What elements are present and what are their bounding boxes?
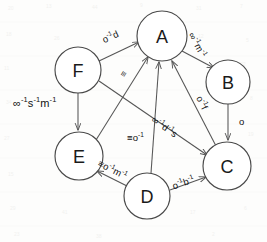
graph-svg: A B C D E F [0,0,267,242]
node-A-label: A [156,27,168,47]
edge-label-F-E: ∞-1s-1m-1 [13,98,56,109]
node-E-label: E [73,147,85,167]
node-F-label: F [73,61,84,81]
nodes-group: A B C D E F [55,11,251,219]
node-B-label: B [222,73,234,93]
node-D-label: D [141,187,154,207]
node-F[interactable]: F [55,47,101,93]
edge-C-E-stub [94,148,203,150]
edge-label-F-E-sup3: -1 [50,95,57,104]
edge-label-F-E-sup1: -1 [21,95,28,104]
edge-label-F-E-base: ∞ [13,97,21,109]
edge-label-F-E-tail: m [40,97,49,109]
node-B[interactable]: B [206,60,250,104]
node-C[interactable]: C [203,142,251,190]
node-D[interactable]: D [124,173,170,219]
edge-label-B-C: o [239,117,244,127]
edge-label-B-C-text: o [239,116,244,127]
node-E[interactable]: E [55,132,103,180]
node-A[interactable]: A [137,11,187,61]
edge-label-D-A-sup: -1 [138,131,144,138]
node-C-label: C [221,157,234,177]
edge-label-D-A: ≡o-1 [127,133,144,143]
diagram-canvas: 201344 9317 182612 5 1122 348 2719 153 2… [0,0,267,242]
